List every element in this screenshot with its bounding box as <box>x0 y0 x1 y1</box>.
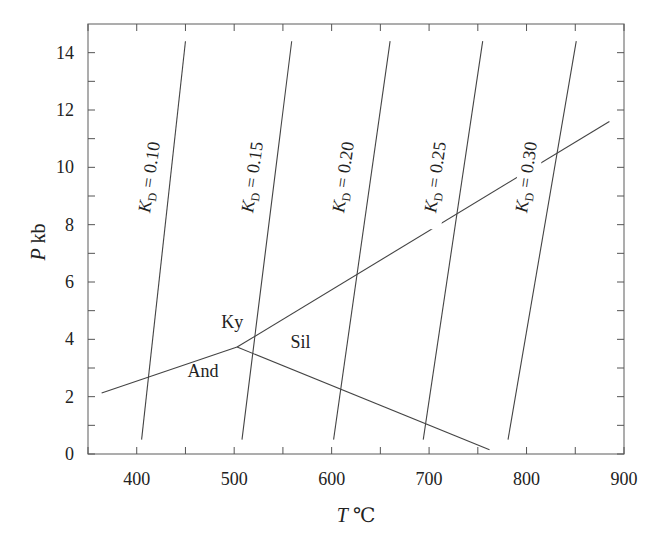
plot-frame <box>88 24 624 454</box>
series-line <box>423 41 482 439</box>
y-axis-title: P kb <box>27 223 49 261</box>
y-tick-label: 10 <box>56 157 74 177</box>
phase-label-and: And <box>187 361 218 381</box>
x-axis-title: T ℃ <box>337 504 376 526</box>
series-line <box>237 121 609 347</box>
kd-label: KD = 0.10 <box>132 124 169 230</box>
series-line <box>237 347 489 450</box>
y-tick-label: 0 <box>65 444 74 464</box>
phase-label-sil: Sil <box>290 332 310 352</box>
y-tick-label: 14 <box>56 43 74 63</box>
x-tick-label: 900 <box>611 469 638 489</box>
phase-label-ky: Ky <box>221 312 243 332</box>
kd-label: KD = 0.25 <box>418 124 455 230</box>
axis-ticks: 40050060070080090002468101214 <box>56 24 638 489</box>
kd-label: KD = 0.30 <box>509 124 546 230</box>
y-tick-label: 4 <box>65 329 74 349</box>
x-tick-label: 800 <box>513 469 540 489</box>
phase-annotations: KySilAnd <box>187 312 310 381</box>
y-tick-label: 6 <box>65 272 74 292</box>
x-tick-label: 700 <box>416 469 443 489</box>
x-tick-label: 500 <box>221 469 248 489</box>
series-labels: KD = 0.10KD = 0.15KD = 0.20KD = 0.25KD =… <box>132 124 546 230</box>
y-tick-label: 2 <box>65 387 74 407</box>
plot-border <box>88 24 624 454</box>
x-tick-label: 600 <box>318 469 345 489</box>
y-tick-label: 8 <box>65 215 74 235</box>
kd-label: KD = 0.20 <box>326 124 363 230</box>
x-tick-label: 400 <box>123 469 150 489</box>
series-line <box>334 41 391 439</box>
series-line <box>508 41 576 439</box>
data-series <box>102 41 610 450</box>
y-tick-label: 12 <box>56 100 74 120</box>
series-line <box>242 41 292 439</box>
pt-diagram-chart: 40050060070080090002468101214 KD = 0.10K… <box>0 0 667 540</box>
series-line <box>142 41 186 439</box>
kd-label: KD = 0.15 <box>235 124 272 230</box>
